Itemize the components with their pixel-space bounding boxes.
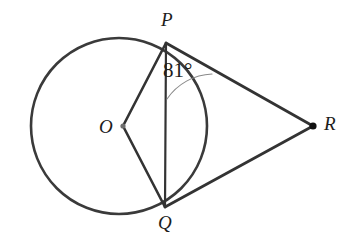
point-R-dot: [309, 122, 316, 129]
geometry-canvas: [0, 0, 358, 248]
segment-OQ: [123, 126, 165, 207]
geometry-diagram: P O Q R 81°: [0, 0, 358, 248]
point-label-r: R: [324, 114, 336, 133]
segment-OP: [123, 43, 166, 126]
segment-QR: [165, 126, 313, 207]
point-label-o: O: [99, 117, 113, 136]
point-label-q: Q: [158, 213, 172, 232]
segment-PR: [166, 43, 313, 126]
point-O-dot: [120, 123, 125, 128]
angle-measure-label: 81°: [163, 60, 192, 81]
point-label-p: P: [161, 10, 173, 29]
